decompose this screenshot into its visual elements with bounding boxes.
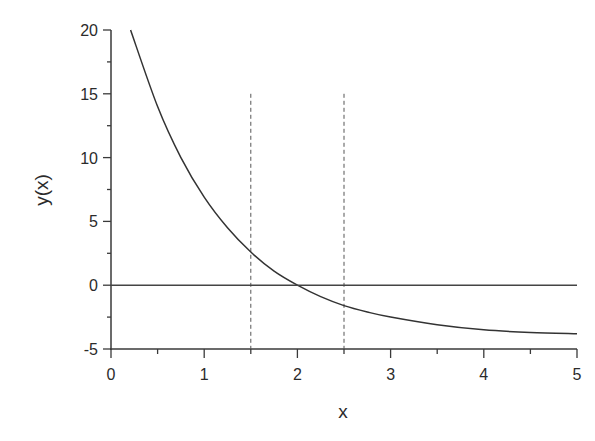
x-tick-label: 0 bbox=[107, 366, 116, 383]
y-tick-label: 5 bbox=[89, 213, 98, 230]
tick-labels: -505101520012345 bbox=[80, 22, 581, 383]
x-tick-label: 1 bbox=[200, 366, 209, 383]
x-tick-label: 2 bbox=[293, 366, 302, 383]
y-axis-label: y(x) bbox=[31, 174, 52, 206]
x-axis-label: x bbox=[338, 401, 348, 422]
y-tick-label: 15 bbox=[80, 86, 98, 103]
plot-series bbox=[111, 30, 577, 334]
curve-y-of-x bbox=[131, 30, 577, 334]
y-tick-label: 10 bbox=[80, 150, 98, 167]
y-tick-label: -5 bbox=[84, 341, 98, 358]
x-tick-label: 5 bbox=[573, 366, 582, 383]
y-tick-label: 20 bbox=[80, 22, 98, 39]
axes bbox=[103, 30, 577, 358]
y-tick-label: 0 bbox=[89, 277, 98, 294]
x-tick-label: 4 bbox=[479, 366, 488, 383]
x-tick-label: 3 bbox=[386, 366, 395, 383]
chart-canvas: -505101520012345 x y(x) bbox=[0, 0, 595, 441]
dashed-reference-lines bbox=[251, 94, 344, 349]
